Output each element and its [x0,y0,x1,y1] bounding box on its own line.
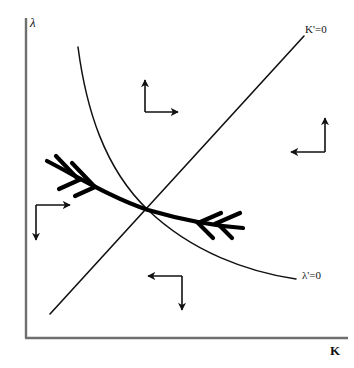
direction-arrows-bottom [148,276,182,310]
saddle-path-arrowhead-left [56,156,95,196]
y-axis-label: λ [30,16,36,29]
axes-group [25,18,348,338]
direction-arrows-left [36,205,70,240]
phase-diagram-canvas [0,0,354,368]
k-nullcline-label: K'=0 [305,24,327,35]
phase-diagram-figure: λ K K'=0 λ'=0 [0,0,354,368]
saddle-path-group [47,156,243,238]
x-axis-label: K [330,344,340,357]
direction-arrows-top [145,80,178,112]
lambda-nullcline-label: λ'=0 [302,270,321,281]
direction-arrows-right [291,118,325,152]
